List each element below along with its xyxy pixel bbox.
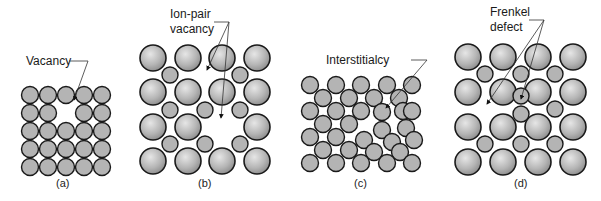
atom — [232, 136, 248, 152]
atom — [40, 87, 57, 104]
atom — [513, 88, 529, 104]
large-ion — [175, 79, 201, 105]
interstitialcy-label: Interstitialcy — [326, 53, 389, 67]
atom — [162, 67, 178, 83]
large-ion — [140, 45, 166, 71]
atom — [477, 66, 493, 82]
atom — [315, 116, 332, 133]
atom — [379, 77, 396, 94]
atom — [76, 159, 93, 176]
caption-d: (d) — [514, 177, 527, 189]
large-ion — [175, 45, 201, 71]
atom — [40, 105, 57, 122]
large-ion — [560, 44, 586, 70]
panel-b — [140, 45, 270, 174]
atom — [353, 77, 370, 94]
atom — [22, 141, 39, 158]
ion-pair-label-line1: Ion-pair — [170, 7, 211, 21]
atom — [94, 141, 111, 158]
large-ion — [455, 79, 481, 105]
atom — [302, 155, 319, 172]
atom — [315, 90, 332, 107]
atom — [547, 66, 563, 82]
large-ion — [140, 114, 166, 140]
atom — [379, 155, 396, 172]
large-ion — [455, 149, 481, 175]
atom — [315, 142, 332, 159]
large-ion — [525, 79, 551, 105]
atom — [58, 123, 75, 140]
atom — [341, 90, 358, 107]
atom — [302, 103, 319, 120]
vacancy-label: Vacancy — [26, 54, 71, 68]
atom — [22, 87, 39, 104]
large-ion — [490, 149, 516, 175]
large-ion — [490, 114, 516, 140]
large-ion — [560, 114, 586, 140]
large-ion — [455, 114, 481, 140]
large-ion — [175, 114, 201, 140]
atom — [76, 123, 93, 140]
atom — [94, 105, 111, 122]
large-ion — [244, 79, 270, 105]
atom — [94, 159, 111, 176]
atom — [547, 136, 563, 152]
atom — [302, 129, 319, 146]
atom — [328, 77, 345, 94]
panel-a — [22, 87, 111, 176]
atom — [197, 136, 213, 152]
panel-c — [302, 77, 423, 172]
large-ion — [490, 79, 516, 105]
atom — [58, 87, 75, 104]
large-ion — [525, 114, 551, 140]
large-ion — [140, 79, 166, 105]
atom — [22, 123, 39, 140]
atom — [22, 105, 39, 122]
atom — [341, 142, 358, 159]
atom — [22, 159, 39, 176]
atom — [406, 132, 423, 149]
caption-c: (c) — [354, 177, 367, 189]
atom — [232, 102, 248, 118]
large-ion — [209, 148, 235, 174]
atom — [353, 155, 370, 172]
atom — [40, 159, 57, 176]
atom — [40, 123, 57, 140]
atom — [302, 77, 319, 94]
large-ion — [525, 149, 551, 175]
atom — [76, 105, 93, 122]
atom — [232, 67, 248, 83]
large-ion — [140, 148, 166, 174]
atom — [76, 141, 93, 158]
atom — [547, 101, 563, 117]
large-ion — [455, 44, 481, 70]
large-ion — [244, 114, 270, 140]
large-ion — [490, 44, 516, 70]
atom — [513, 106, 529, 122]
atom — [341, 116, 358, 133]
atom — [94, 123, 111, 140]
atom — [162, 102, 178, 118]
ion-pair-label-line2: vacancy — [170, 22, 214, 36]
atom — [328, 103, 345, 120]
large-ion — [244, 45, 270, 71]
atom — [404, 103, 421, 120]
atom — [513, 136, 529, 152]
frenkel-label-line2: defect — [490, 20, 523, 34]
frenkel-label-line1: Frenkel — [490, 5, 530, 19]
atom — [58, 141, 75, 158]
crystal-defects-figure: Vacancy (a) Ion-pair vacancy (b) Interst… — [0, 0, 601, 201]
atom — [58, 159, 75, 176]
atom — [353, 103, 370, 120]
large-ion — [209, 79, 235, 105]
atom — [40, 141, 57, 158]
atom — [404, 155, 421, 172]
large-ion — [175, 148, 201, 174]
caption-a: (a) — [56, 177, 69, 189]
atom — [328, 129, 345, 146]
atom — [94, 87, 111, 104]
large-ion — [560, 149, 586, 175]
atom — [477, 136, 493, 152]
caption-b: (b) — [198, 177, 211, 189]
large-ion — [244, 148, 270, 174]
